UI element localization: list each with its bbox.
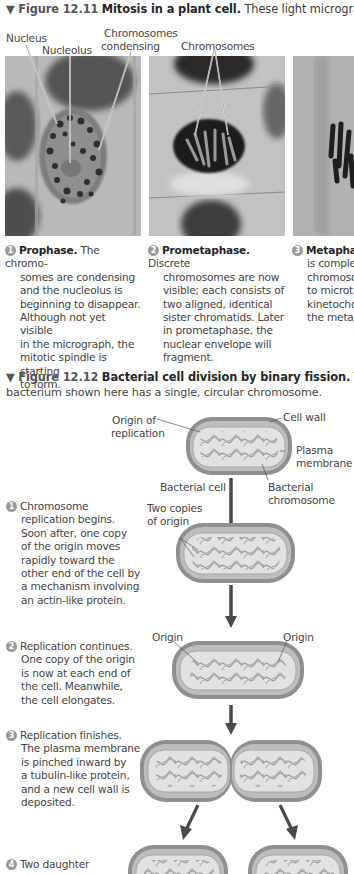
- bacterial-cell-step1: [176, 523, 295, 583]
- step-number-circle: 2: [6, 641, 17, 652]
- label-plasma-membrane-1: Plasma: [296, 444, 333, 457]
- step-number-circle: 1: [6, 501, 17, 512]
- label-origin-left: Origin: [152, 631, 183, 644]
- step-number-circle: 4: [6, 859, 17, 870]
- step-4-caption: 4Two daughter: [6, 858, 146, 871]
- label-bacterial-chromosome-1: Bacterial: [268, 481, 313, 494]
- label-two-copies-1: Two copies: [147, 502, 202, 515]
- step-3-caption: 3Replication finishes. The plasma membra…: [6, 729, 146, 809]
- bacterial-cell-step2: [172, 641, 304, 699]
- label-origin-of-replication-2: replication: [111, 427, 165, 440]
- step-1-caption: 1Chromosome replication begins. Soon aft…: [6, 500, 146, 607]
- daughter-cells: [128, 845, 348, 874]
- label-origin-of-replication-1: Origin of: [112, 414, 156, 427]
- label-two-copies-2: of origin: [147, 515, 189, 528]
- label-bacterial-cell: Bacterial cell: [160, 481, 226, 494]
- label-plasma-membrane-2: membrane: [296, 457, 352, 470]
- label-bacterial-chromosome-2: chromosome: [268, 494, 335, 507]
- step-2-caption: 2Replication continues. One copy of the …: [6, 640, 146, 707]
- bacterial-cell-original: [186, 417, 292, 475]
- label-cell-wall: Cell wall: [283, 411, 325, 424]
- label-origin-right: Origin: [283, 631, 314, 644]
- bacterial-cell-step3-dividing: [140, 740, 322, 802]
- step-number-circle: 3: [6, 730, 17, 741]
